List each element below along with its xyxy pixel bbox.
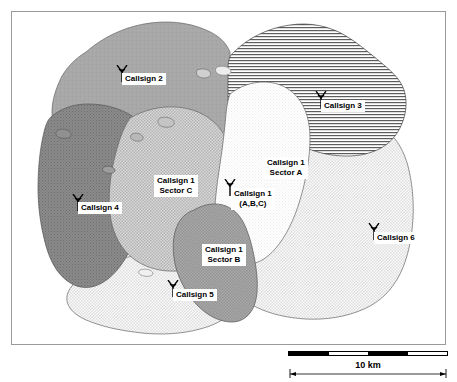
site-label-callsign-6[interactable]: Callsign 6 xyxy=(374,232,418,244)
site-label-line-1: Callsign 1 xyxy=(234,189,272,199)
area-label-line-1: Callsign 1 xyxy=(157,176,195,186)
enclave-island xyxy=(158,117,174,127)
map-frame: Callsign 2 Callsign 3 Callsign 4 xyxy=(11,11,446,345)
area-label-line-1: Callsign 1 xyxy=(205,245,243,255)
enclave-island xyxy=(103,166,115,173)
site-label-callsign-3[interactable]: Callsign 3 xyxy=(321,100,365,112)
area-label-line-2: Sector C xyxy=(157,186,195,196)
scale-bar-label: 10 km xyxy=(288,360,448,370)
enclave-island xyxy=(56,129,71,138)
enclave-island xyxy=(131,133,144,141)
site-label-callsign-5[interactable]: Callsign 5 xyxy=(173,289,217,301)
area-label-line-2: Sector B xyxy=(205,255,243,265)
area-label-line-1: Callsign 1 xyxy=(267,158,305,168)
site-label-callsign-1-abc[interactable]: Callsign 1 (A,B,C) xyxy=(231,188,275,210)
area-label-sector-a[interactable]: Callsign 1 Sector A xyxy=(264,157,308,179)
scale-segment xyxy=(329,352,369,355)
scale-bar-blocks xyxy=(288,351,448,356)
scale-segment xyxy=(408,352,448,355)
site-label-callsign-4[interactable]: Callsign 4 xyxy=(78,202,122,214)
coverage-map-svg xyxy=(12,12,445,344)
area-label-sector-c[interactable]: Callsign 1 Sector C xyxy=(154,175,198,197)
site-label-line-2: (A,B,C) xyxy=(234,199,272,209)
scale-bar: 10 km xyxy=(288,351,448,379)
coverage-map-page: Callsign 2 Callsign 3 Callsign 4 xyxy=(0,0,457,382)
area-label-line-2: Sector A xyxy=(267,168,305,178)
enclave-island xyxy=(196,69,210,78)
site-label-callsign-2[interactable]: Callsign 2 xyxy=(122,73,166,85)
area-label-sector-b[interactable]: Callsign 1 Sector B xyxy=(202,244,246,266)
scale-segment xyxy=(368,352,408,355)
scale-segment xyxy=(289,352,329,355)
